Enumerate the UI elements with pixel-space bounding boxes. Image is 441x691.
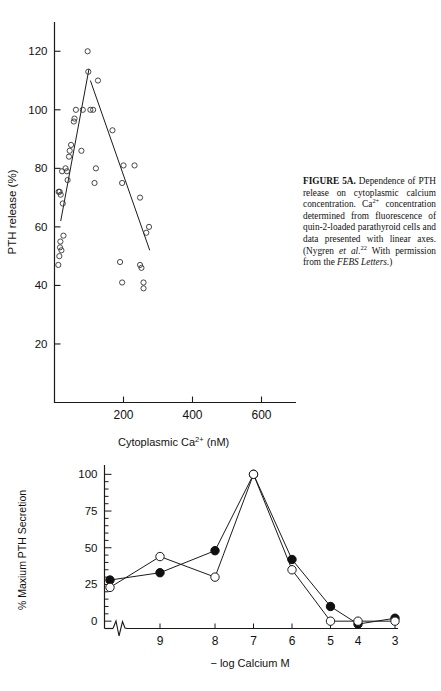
descending-fit (90, 81, 149, 251)
x-tick-label: 4 (355, 634, 362, 648)
x-tick-label: 200 (113, 408, 133, 422)
scatter-point (132, 163, 137, 168)
caption-label: FIGURE 5A. (303, 176, 356, 186)
filled-circle-series-marker (326, 602, 334, 610)
top-chart-fit-lines (61, 69, 150, 250)
scatter-point (93, 166, 98, 171)
top-chart-x-ticks: 200400600 (113, 397, 271, 422)
filled-circle-series-marker (288, 555, 296, 563)
x-tick-label: 8 (212, 634, 219, 648)
xlabel-base: Cytoplasmic Ca (118, 436, 196, 448)
open-circle-series-marker (391, 617, 399, 625)
top-chart-y-ticks: 20406080100120 (28, 45, 60, 350)
scatter-point (110, 128, 115, 133)
x-tick-label: 6 (289, 634, 296, 648)
scatter-point (120, 180, 125, 185)
open-circle-series-marker (288, 566, 296, 574)
scatter-point (141, 280, 146, 285)
x-tick-label: 400 (182, 408, 202, 422)
scatter-point (56, 262, 61, 267)
x-tick-label: 7 (250, 634, 257, 648)
filled-circle-series-marker (156, 569, 164, 577)
figure-caption: FIGURE 5A. Dependence of PTH release on … (303, 176, 436, 269)
x-axis-break-icon (113, 621, 127, 636)
bottom-chart-axes (105, 465, 399, 636)
scatter-point (144, 230, 149, 235)
scatter-point (68, 142, 73, 147)
scatter-point (79, 148, 84, 153)
y-tick-label: 80 (35, 162, 48, 174)
scatter-point (121, 163, 126, 168)
y-tick-label: 75 (85, 505, 98, 517)
x-tick-label: 3 (392, 634, 399, 648)
scatter-point (58, 239, 63, 244)
xlabel-unit: (nM) (207, 436, 230, 448)
figure-page: 20406080100120 200400600 PTH release (%)… (0, 0, 441, 691)
open-circle-series-marker (211, 573, 219, 581)
y-tick-label: 20 (35, 338, 48, 350)
scatter-point (67, 148, 72, 153)
top-chart-xlabel: Cytoplasmic Ca2+ (nM) (118, 435, 229, 449)
scatter-point (85, 49, 90, 54)
y-tick-label: 60 (35, 221, 48, 233)
top-chart-axes (55, 22, 297, 403)
scatter-point (61, 233, 66, 238)
caption-body-4: ) (389, 257, 392, 267)
x-tick-label: 9 (157, 634, 164, 648)
open-circle-series-line (110, 474, 395, 621)
scatter-point (73, 107, 78, 112)
y-tick-label: 50 (85, 542, 98, 554)
scatter-point (146, 224, 151, 229)
scatter-point (120, 280, 125, 285)
y-tick-label: 40 (35, 279, 48, 291)
bottom-line-chart: 0255075100 9876543 % Maxium PTH Secretio… (0, 455, 441, 691)
caption-italic-journal: FEBS Letters. (337, 257, 389, 267)
bottom-chart-svg: 0255075100 9876543 % Maxium PTH Secretio… (0, 455, 441, 691)
ascending-fit (61, 69, 89, 221)
scatter-point (141, 286, 146, 291)
top-chart-ylabel: PTH release (%) (6, 169, 18, 254)
bottom-chart-xlabel: − log Calcium M (210, 657, 289, 669)
caption-italic-etal: et al. (339, 246, 360, 256)
y-tick-label: 100 (28, 104, 47, 116)
axis-lines (55, 22, 297, 403)
open-circle-series-marker (326, 617, 334, 625)
top-scatter-chart: 20406080100120 200400600 PTH release (%)… (0, 0, 310, 470)
scatter-point (57, 254, 62, 259)
y-tick-label: 25 (85, 578, 98, 590)
bottom-chart-x-ticks: 9876543 (157, 624, 399, 648)
scatter-point (117, 259, 122, 264)
open-circle-series-marker (156, 552, 164, 560)
scatter-point (95, 78, 100, 83)
open-circle-series-marker (354, 617, 362, 625)
open-circle-series-marker (249, 470, 257, 478)
scatter-point (66, 154, 71, 159)
y-tick-label: 100 (78, 468, 97, 480)
open-circle-series-marker (106, 583, 114, 591)
x-tick-label: 5 (327, 634, 334, 648)
bottom-chart-ylabel: % Maxium PTH Secretion (16, 490, 28, 610)
top-chart-svg: 20406080100120 200400600 PTH release (%)… (0, 0, 310, 470)
scatter-point (60, 201, 65, 206)
scatter-point (92, 180, 97, 185)
x-tick-label: 600 (251, 408, 271, 422)
y-tick-label: 0 (91, 615, 97, 627)
y-tick-label: 120 (28, 45, 47, 57)
bottom-chart-y-ticks: 0255075100 (78, 468, 111, 627)
bottom-chart-series (106, 470, 399, 628)
filled-circle-series-line (110, 474, 395, 624)
filled-circle-series-marker (211, 546, 219, 554)
scatter-point (137, 195, 142, 200)
